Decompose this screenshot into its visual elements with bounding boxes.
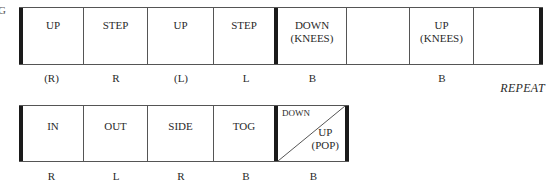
foot-label: R [148,170,214,182]
repeat-label: REPEAT [500,81,545,96]
step-cell-down-up-pop: DOWN UP (POP) [278,106,349,161]
foot-label: B [278,170,349,182]
split-bottom-label: UP (POP) [311,126,339,152]
foot-label [347,72,410,84]
pattern-row-1: UP STEP UP STEP DOWN(KNEES) UP(KNEES) [19,7,543,65]
foot-label: (L) [148,72,214,84]
foot-label: B [214,170,278,182]
step-cell-step-r: STEP [84,8,148,64]
step-cell-empty-1 [347,8,410,64]
foot-label: B [278,72,347,84]
foot-label: B [410,72,474,84]
foot-label: R [19,170,84,182]
foot-label: (R) [19,72,84,84]
pattern-row-2: IN OUT SIDE TOG DOWN UP (POP) [19,105,349,162]
step-cell-tog: TOG [214,106,278,161]
foot-label: L [84,170,148,182]
step-cell-up-knees: UP(KNEES) [410,8,474,64]
step-cell-up-r: UP [19,8,84,64]
row-1-foot-labels: (R) R (L) L B B [19,72,543,84]
row-2-foot-labels: R L R B B [19,170,349,182]
step-cell-step-l: STEP [214,8,278,64]
step-cell-out: OUT [84,106,148,161]
foot-label: L [214,72,278,84]
step-cell-side: SIDE [148,106,214,161]
step-cell-down-knees: DOWN(KNEES) [278,8,347,64]
cropped-fragment: G [0,4,6,16]
foot-label: R [84,72,148,84]
split-top-label: DOWN [282,108,310,119]
step-cell-in: IN [19,106,84,161]
step-cell-empty-2 [474,8,543,64]
step-cell-up-l: UP [148,8,214,64]
